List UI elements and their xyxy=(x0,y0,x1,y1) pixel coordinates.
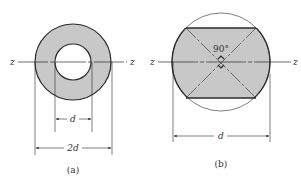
dimension-label-d: d xyxy=(70,114,76,124)
dimension-label-d: d xyxy=(218,131,224,141)
figure-a: z z d 2d (a) xyxy=(9,24,135,175)
figure-b: 90° z z d (b) xyxy=(149,13,298,169)
axis-label-left: z xyxy=(9,57,15,67)
diagram-canvas: z z d 2d (a) 90° z z xyxy=(0,0,301,181)
axis-label-right: z xyxy=(292,57,298,67)
angle-label: 90° xyxy=(213,44,229,54)
dimension-label-2d: 2d xyxy=(66,143,79,153)
figure-caption-b: (b) xyxy=(215,159,228,169)
figure-caption-a: (a) xyxy=(67,165,79,175)
axis-label-left: z xyxy=(149,57,155,67)
axis-label-right: z xyxy=(129,57,135,67)
